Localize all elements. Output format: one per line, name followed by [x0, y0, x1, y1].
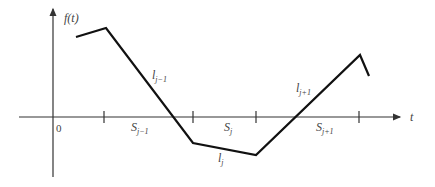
- interval-label-s-j: Sj: [224, 120, 233, 136]
- segment-label-l-j: lj: [218, 151, 224, 167]
- piecewise-linear-diagram: f(t) t 0 lj−1 lj lj+1 Sj−1 Sj Sj+1: [0, 0, 435, 187]
- interval-label-s-j-minus-1: Sj−1: [131, 120, 149, 136]
- segment-label-l-j-plus-1: lj+1: [296, 81, 311, 97]
- x-axis-label: t: [410, 110, 414, 124]
- y-axis-label: f(t): [64, 11, 79, 25]
- interval-label-s-j-plus-1: Sj+1: [316, 120, 334, 136]
- segment-label-l-j-minus-1: lj−1: [152, 68, 167, 84]
- origin-label: 0: [56, 122, 62, 134]
